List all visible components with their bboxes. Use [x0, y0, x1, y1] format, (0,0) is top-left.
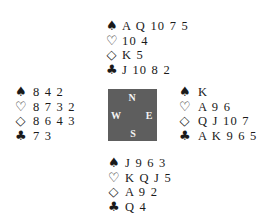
west-clubs-cards: 7 3 [33, 129, 52, 143]
north-diamonds-cards: K 5 [122, 48, 144, 62]
club-icon: ♣ [108, 200, 120, 214]
spade-icon: ♠ [15, 85, 27, 99]
south-diamonds-cards: A 9 2 [125, 185, 158, 199]
east-spades-cards: K [198, 85, 208, 99]
east-diamonds-cards: Q J 10 7 [198, 114, 250, 128]
club-icon: ♣ [106, 63, 118, 77]
east-clubs-cards: A K 9 6 5 [198, 129, 257, 143]
diamond-icon: ◇ [179, 114, 191, 128]
south-clubs-cards: Q 4 [125, 200, 147, 214]
west-spades-cards: 8 4 2 [33, 85, 64, 99]
compass-west-label: W [110, 111, 122, 121]
club-icon: ♣ [179, 129, 191, 143]
east-hearts-cards: A 9 6 [198, 100, 231, 114]
spade-icon: ♠ [106, 19, 118, 33]
heart-icon: ♡ [15, 100, 27, 114]
spade-icon: ♠ [108, 156, 120, 170]
spade-icon: ♠ [179, 85, 191, 99]
heart-icon: ♡ [106, 34, 118, 48]
north-spades-cards: A Q 10 7 5 [122, 19, 189, 33]
diamond-icon: ◇ [108, 185, 120, 199]
north-hearts-cards: 10 4 [122, 34, 149, 48]
west-diamonds-cards: 8 6 4 3 [33, 114, 76, 128]
diamond-icon: ◇ [106, 48, 118, 62]
compass-east-label: E [143, 111, 155, 121]
diamond-icon: ◇ [15, 114, 27, 128]
north-clubs-cards: J 10 8 2 [122, 63, 171, 77]
compass-table: N W E S [108, 89, 157, 141]
heart-icon: ♡ [179, 100, 191, 114]
club-icon: ♣ [15, 129, 27, 143]
south-spades-cards: J 9 6 3 [125, 156, 166, 170]
south-hearts-cards: K Q J 5 [125, 171, 172, 185]
heart-icon: ♡ [108, 171, 120, 185]
compass-north-label: N [126, 93, 138, 103]
west-hearts-cards: 8 7 3 2 [33, 100, 76, 114]
compass-south-label: S [127, 129, 139, 139]
